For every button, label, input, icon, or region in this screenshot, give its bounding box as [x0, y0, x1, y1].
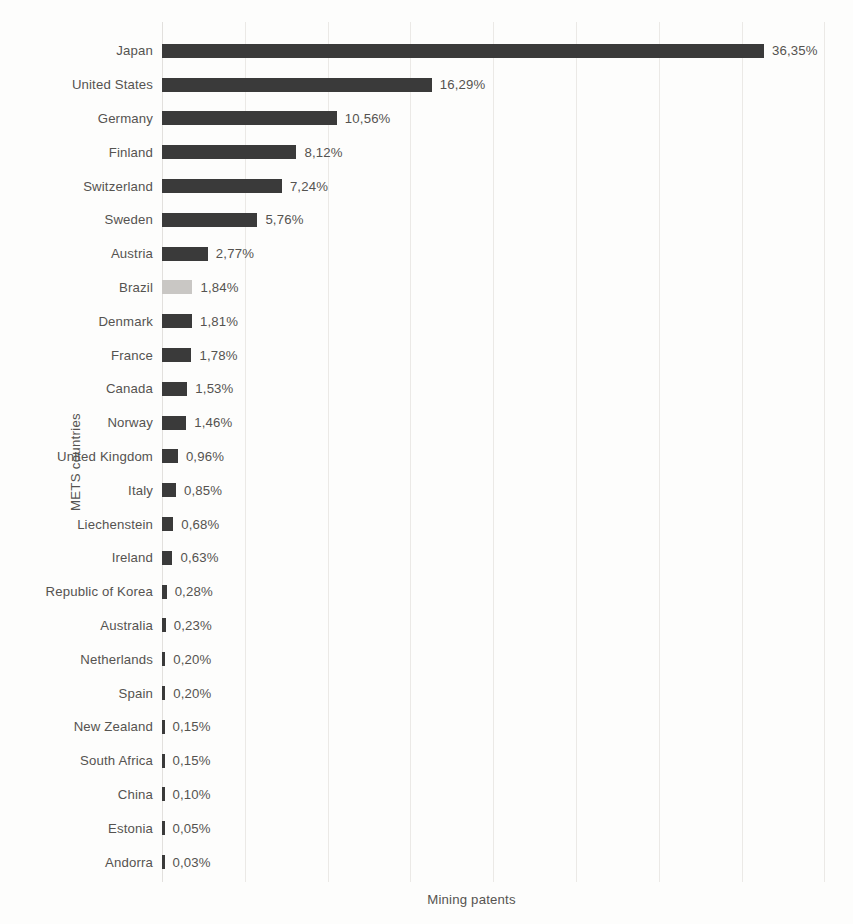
bar-row: Italy0,85% — [162, 473, 837, 507]
bar — [162, 416, 186, 430]
bar-value-label: 0,20% — [173, 686, 211, 701]
bar-row: Netherlands0,20% — [162, 642, 837, 676]
category-label: Sweden — [104, 212, 153, 227]
bar-row: France1,78% — [162, 338, 837, 372]
bar-value-label: 0,15% — [173, 753, 211, 768]
category-label: Germany — [98, 111, 153, 126]
bar-value-label: 1,78% — [199, 348, 237, 363]
mining-patents-bar-chart: Japan36,35%United States16,29%Germany10,… — [0, 0, 853, 924]
category-label: Japan — [116, 43, 153, 58]
bar — [162, 618, 166, 632]
bar-row: China0,10% — [162, 778, 837, 812]
x-axis-title: Mining patents — [0, 892, 853, 907]
bar-row: Liechenstein0,68% — [162, 507, 837, 541]
bar — [162, 585, 167, 599]
category-label: Denmark — [98, 314, 153, 329]
bar — [162, 787, 165, 801]
bar — [162, 754, 165, 768]
bar — [162, 551, 172, 565]
bar-row: Austria2,77% — [162, 237, 837, 271]
category-label: Austria — [111, 246, 153, 261]
bar-value-label: 0,10% — [173, 787, 211, 802]
bar-row: Finland8,12% — [162, 135, 837, 169]
bar-value-label: 0,05% — [173, 821, 211, 836]
bar-value-label: 1,81% — [200, 314, 238, 329]
category-label: Republic of Korea — [46, 584, 153, 599]
bar-value-label: 0,96% — [186, 449, 224, 464]
bar-row: Australia0,23% — [162, 609, 837, 643]
bar — [162, 449, 178, 463]
bar — [162, 348, 191, 362]
category-label: Estonia — [108, 821, 153, 836]
category-label: Australia — [100, 618, 153, 633]
bar — [162, 821, 165, 835]
bar-value-label: 1,84% — [200, 280, 238, 295]
category-label: Finland — [109, 145, 153, 160]
bar — [162, 111, 337, 125]
bar-value-label: 16,29% — [440, 77, 486, 92]
bar-value-label: 1,46% — [194, 415, 232, 430]
bar-value-label: 36,35% — [772, 43, 818, 58]
bar — [162, 44, 764, 58]
bar-value-label: 10,56% — [345, 111, 391, 126]
bar-row: Republic of Korea0,28% — [162, 575, 837, 609]
category-label: New Zealand — [74, 719, 153, 734]
category-label: Spain — [119, 686, 153, 701]
bar — [162, 280, 192, 294]
bar-value-label: 7,24% — [290, 179, 328, 194]
category-label: China — [118, 787, 153, 802]
bar-row: Switzerland7,24% — [162, 169, 837, 203]
bar-row: Andorra0,03% — [162, 845, 837, 879]
bar-row: Japan36,35% — [162, 34, 837, 68]
category-label: Switzerland — [83, 179, 153, 194]
bar-row: Ireland0,63% — [162, 541, 837, 575]
category-label: Ireland — [112, 550, 153, 565]
bar-row: Canada1,53% — [162, 372, 837, 406]
bar-value-label: 2,77% — [216, 246, 254, 261]
bar-value-label: 0,63% — [180, 550, 218, 565]
category-label: Liechenstein — [77, 517, 153, 532]
bar-row: South Africa0,15% — [162, 744, 837, 778]
bar-row: Germany10,56% — [162, 102, 837, 136]
category-label: Netherlands — [80, 652, 153, 667]
bar-value-label: 0,85% — [184, 483, 222, 498]
bar-row: Spain0,20% — [162, 676, 837, 710]
bar — [162, 652, 165, 666]
bar — [162, 145, 296, 159]
category-label: South Africa — [80, 753, 153, 768]
bar — [162, 483, 176, 497]
bar-value-label: 8,12% — [304, 145, 342, 160]
plot-area: Japan36,35%United States16,29%Germany10,… — [162, 22, 837, 882]
category-label: Canada — [106, 381, 153, 396]
category-label: Italy — [128, 483, 153, 498]
bar-row: Sweden5,76% — [162, 203, 837, 237]
bar-value-label: 0,15% — [173, 719, 211, 734]
bar-value-label: 0,28% — [175, 584, 213, 599]
y-axis-title: METS countries — [68, 413, 83, 511]
category-label: Norway — [107, 415, 153, 430]
category-label: Andorra — [105, 855, 153, 870]
bar-row: Denmark1,81% — [162, 304, 837, 338]
bar-row: New Zealand0,15% — [162, 710, 837, 744]
bar — [162, 314, 192, 328]
bar — [162, 78, 432, 92]
bar — [162, 382, 187, 396]
bar — [162, 720, 165, 734]
category-label: Brazil — [119, 280, 153, 295]
bar — [162, 213, 257, 227]
bar-value-label: 1,53% — [195, 381, 233, 396]
bar-value-label: 0,20% — [173, 652, 211, 667]
category-label: United States — [72, 77, 153, 92]
bar — [162, 517, 173, 531]
bar-row: Estonia0,05% — [162, 811, 837, 845]
bar-value-label: 0,68% — [181, 517, 219, 532]
bar — [162, 855, 165, 869]
bar-value-label: 5,76% — [265, 212, 303, 227]
bar — [162, 247, 208, 261]
category-label: France — [111, 348, 153, 363]
bar — [162, 686, 165, 700]
bar-value-label: 0,23% — [174, 618, 212, 633]
bar-row: Norway1,46% — [162, 406, 837, 440]
bar-row: Brazil1,84% — [162, 271, 837, 305]
bar-row: United Kingdom0,96% — [162, 440, 837, 474]
